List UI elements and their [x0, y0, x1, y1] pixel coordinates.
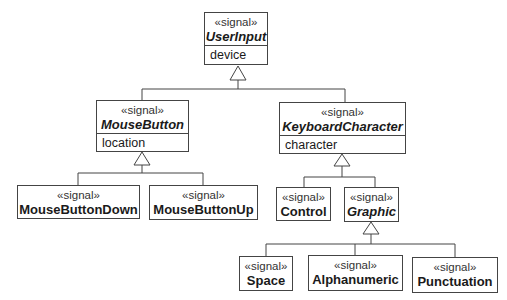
class-mousebuttondown: «signal» MouseButtonDown [17, 185, 140, 219]
generalization-arrow-mousebutton [134, 152, 150, 165]
class-name: MouseButton [97, 117, 188, 133]
class-name: Space [240, 273, 292, 289]
stereotype-label: «signal» [240, 260, 292, 273]
stereotype-label: «signal» [309, 259, 402, 272]
class-name: MouseButtonUp [150, 202, 257, 218]
stereotype-label: «signal» [413, 261, 497, 274]
class-name: Graphic [345, 204, 398, 220]
class-name: MouseButtonDown [18, 202, 139, 218]
class-control: «signal» Control [276, 187, 331, 221]
class-graphic: «signal» Graphic [344, 187, 399, 222]
attribute-character: character [280, 135, 405, 155]
class-name: Control [277, 204, 330, 220]
stereotype-label: «signal» [18, 189, 139, 202]
class-name: KeyboardCharacter [280, 119, 405, 135]
class-punctuation: «signal» Punctuation [412, 257, 498, 293]
stereotype-label: «signal» [150, 189, 257, 202]
generalization-arrow-graphic [363, 222, 379, 234]
stereotype-label: «signal» [345, 191, 398, 204]
stereotype-label: «signal» [205, 16, 267, 29]
generalization-arrow-userinput [230, 66, 246, 80]
class-name: UserInput [205, 29, 267, 45]
class-keyboardcharacter: «signal» KeyboardCharacter character [279, 102, 406, 154]
stereotype-label: «signal» [280, 106, 405, 119]
class-name: Alphanumeric [309, 272, 402, 288]
stereotype-label: «signal» [97, 104, 188, 117]
class-userinput: «signal» UserInput device [204, 12, 268, 65]
generalization-arrow-keyboardcharacter [334, 154, 350, 166]
attribute-device: device [205, 45, 267, 65]
class-name: Punctuation [413, 274, 497, 290]
class-mousebutton: «signal» MouseButton location [96, 100, 189, 152]
class-alphanumeric: «signal» Alphanumeric [308, 255, 403, 291]
stereotype-label: «signal» [277, 191, 330, 204]
class-mousebuttonup: «signal» MouseButtonUp [149, 185, 258, 220]
attribute-location: location [97, 133, 188, 153]
class-space: «signal» Space [239, 256, 293, 291]
